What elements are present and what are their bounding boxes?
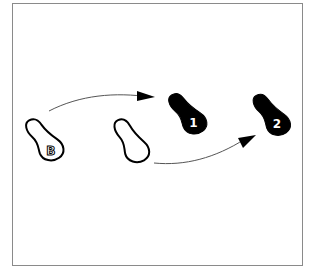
footprint-step-2: 2 [251,87,294,140]
footprint-start-left: B [24,112,67,165]
footprint-start-right [112,113,152,166]
footprint-label-1: 1 [189,116,197,130]
arrow-right-to-2 [154,139,245,164]
footprint-label-2: 2 [273,117,281,131]
arrow-b-to-1 [49,95,150,111]
footprint-label-b: B [46,144,55,158]
arrowhead-icon [137,91,155,101]
footprint-step-1: 1 [166,86,210,139]
arrowhead-icon [238,135,256,148]
dance-steps-diagram: B 1 2 [0,0,310,277]
